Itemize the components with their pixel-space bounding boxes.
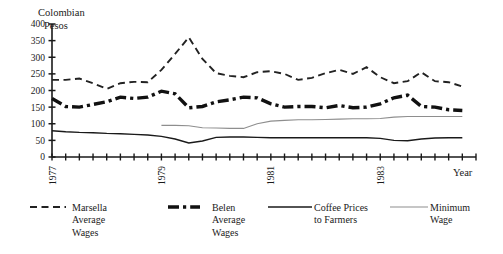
legend-label-0-line2: Average xyxy=(72,214,106,225)
series-line-2 xyxy=(52,131,462,143)
legend-label-2-line1: Coffee Prices xyxy=(314,202,368,213)
y-axis-tick-label: 100 xyxy=(31,119,46,129)
y-axis-tick-label: 50 xyxy=(36,136,46,146)
legend-label-2-line2: to Farmers xyxy=(314,214,357,225)
y-axis-tick-label: 200 xyxy=(31,86,46,96)
legend-label-1-line3: Wages xyxy=(212,227,239,238)
series-line-1 xyxy=(52,91,462,110)
x-axis-tick-label: 1979 xyxy=(157,166,167,185)
series-line-3 xyxy=(161,116,462,128)
chart-figure: 0501001502002503003504001977197919811983… xyxy=(0,0,503,254)
x-axis-tick-label: 1983 xyxy=(376,166,386,185)
legend-label-3-line1: Minimum xyxy=(430,202,470,213)
y-axis-tick-label: 150 xyxy=(31,103,46,113)
legend-label-3-line2: Wage xyxy=(430,214,453,225)
y-axis-tick-label: 0 xyxy=(40,152,45,162)
x-axis-tick-label: 1981 xyxy=(266,166,276,185)
legend-label-1-line1: Belen xyxy=(212,202,235,213)
y-axis-title-line2: Pesos xyxy=(44,20,68,31)
series-line-0 xyxy=(52,37,462,89)
y-axis-tick-label: 250 xyxy=(31,69,46,79)
x-axis-title: Year xyxy=(453,167,473,178)
legend-label-0-line1: Marsella xyxy=(72,202,108,213)
x-axis-tick-label: 1977 xyxy=(48,166,58,185)
legend-label-0-line3: Wages xyxy=(72,227,99,238)
legend-label-1-line2: Average xyxy=(212,214,246,225)
y-axis-tick-label: 350 xyxy=(31,36,46,46)
y-axis-title-line1: Colombian xyxy=(38,7,85,18)
y-axis-tick-label: 300 xyxy=(31,53,46,63)
line-chart-canvas: 0501001502002503003504001977197919811983… xyxy=(0,0,503,254)
